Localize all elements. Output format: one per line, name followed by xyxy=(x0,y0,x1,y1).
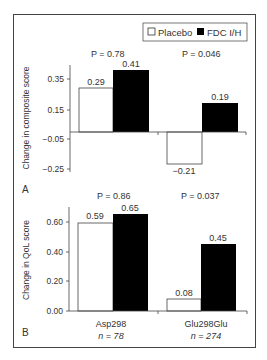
panel-a-ylabel: Change in composite score xyxy=(21,66,31,169)
legend-fdc-label: FDC I/H xyxy=(207,27,241,38)
panel-b-value: 0.59 xyxy=(86,211,104,221)
panel-b-ytick: 0.00 xyxy=(46,306,63,316)
panel-a-ytick: 0.15 xyxy=(47,105,64,115)
panel-b-xlabel-glu: Glu298Glu xyxy=(184,319,227,329)
panel-a-pvalue-asp: P = 0.78 xyxy=(91,49,125,59)
panel-b-n-glu: n = 274 xyxy=(191,331,221,341)
panel-b-ylabel: Change in QoL score xyxy=(21,220,31,300)
panel-b-pvalue-asp: P = 0.86 xyxy=(97,191,131,201)
placebo-swatch xyxy=(148,28,155,35)
panel-b-bar-glu-placebo xyxy=(167,299,201,311)
panel-b-value: 0.45 xyxy=(209,233,227,243)
panel-b-value: 0.65 xyxy=(121,203,139,213)
panel-a-ytick: 0.35 xyxy=(47,74,64,84)
panel-b-letter: B xyxy=(22,327,29,338)
panel-a-letter: A xyxy=(22,184,29,195)
panel-b: P = 0.86 P = 0.037 Change in QoL score 0… xyxy=(21,191,247,341)
figure-svg: Placebo FDC I/H P = 0.78 P = 0.046 Chang… xyxy=(0,0,267,360)
panel-b-ytick: 0.40 xyxy=(46,247,63,257)
panel-b-xlabel-asp: Asp298 xyxy=(96,319,127,329)
panel-a: P = 0.78 P = 0.046 Change in composite s… xyxy=(21,49,246,195)
panel-b-n-asp: n = 78 xyxy=(98,331,123,341)
panel-b-bar-asp-fdc xyxy=(113,214,148,311)
panel-a-bar-glu-fdc xyxy=(202,103,238,132)
panel-a-value: 0.19 xyxy=(211,92,229,102)
panel-a-value: −0.21 xyxy=(173,166,196,176)
panel-a-ytick: −0.05 xyxy=(42,134,64,144)
panel-a-ytick: −0.25 xyxy=(42,164,64,174)
panel-b-bar-asp-placebo xyxy=(78,223,113,311)
panel-b-ytick: 0.20 xyxy=(46,276,63,286)
fdc-swatch xyxy=(197,28,204,35)
panel-a-bar-glu-placebo xyxy=(167,132,202,164)
panel-a-value: 0.29 xyxy=(87,77,105,87)
legend-placebo-label: Placebo xyxy=(158,27,192,38)
panel-b-bar-glu-fdc xyxy=(201,244,236,311)
panel-a-bar-asp-fdc xyxy=(113,70,149,132)
legend: Placebo FDC I/H xyxy=(143,23,247,41)
panel-b-value: 0.08 xyxy=(175,288,193,298)
panel-b-ytick: 0.60 xyxy=(46,217,63,227)
panel-a-pvalue-glu: P = 0.046 xyxy=(182,49,221,59)
panel-a-bar-asp-placebo xyxy=(79,88,113,132)
panel-a-value: 0.41 xyxy=(122,59,140,69)
panel-b-pvalue-glu: P = 0.037 xyxy=(181,191,220,201)
